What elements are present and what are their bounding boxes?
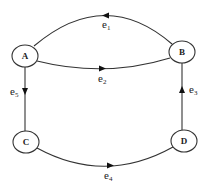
edge-label-e1: e1 (102, 18, 111, 32)
svg-text:A: A (22, 51, 29, 61)
node-b: B (169, 41, 195, 63)
svg-text:D: D (181, 136, 188, 146)
node-d: D (171, 130, 197, 152)
edge-e4 (37, 147, 173, 166)
edge-e2 (37, 58, 170, 69)
arrow-e3-icon (179, 86, 185, 93)
edge-label-e5: e5 (10, 85, 19, 99)
node-a: A (12, 45, 38, 67)
node-c: C (13, 131, 39, 153)
svg-text:B: B (179, 47, 185, 57)
svg-text:C: C (23, 137, 30, 147)
edge-label-e3: e3 (189, 83, 198, 97)
arrow-e5-icon (22, 88, 28, 95)
edge-label-e4: e4 (104, 169, 113, 183)
graph-diagram: e1 e2 e5 e3 e4 A B C D (0, 0, 210, 189)
arrow-e2-icon (99, 66, 106, 72)
arrow-e4-icon (107, 163, 114, 169)
edge-label-e2: e2 (98, 72, 107, 86)
